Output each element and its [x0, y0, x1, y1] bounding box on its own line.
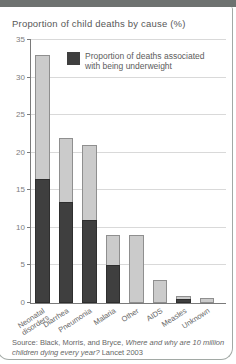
gridline-30	[31, 77, 226, 78]
gridline-25	[31, 114, 226, 115]
chart-page: Proportion of child deaths by cause (%) …	[0, 0, 236, 364]
legend-swatch	[67, 52, 80, 65]
chart-title: Proportion of child deaths by cause (%)	[12, 18, 224, 29]
y-tick-label-20: 20	[5, 148, 25, 157]
y-tick-label-30: 30	[5, 73, 25, 82]
source-note: Source: Black, Morris, and Bryce, Where …	[12, 338, 225, 358]
y-tick-mark-35	[27, 39, 31, 40]
y-tick-mark-20	[27, 152, 31, 153]
y-tick-label-5: 5	[5, 260, 25, 269]
y-tick-mark-25	[27, 114, 31, 115]
source-prefix: Source: Black, Morris, and Bryce,	[12, 338, 125, 347]
bar-total-8	[200, 298, 215, 303]
bar-total-6	[153, 280, 168, 303]
source-journal: Lancet 2003	[100, 348, 143, 357]
y-tick-label-0: 0	[5, 298, 25, 307]
plot-area: Proportion of deaths associated with bei…	[30, 40, 226, 304]
page-top-strip	[0, 0, 236, 7]
y-tick-mark-10	[27, 227, 31, 228]
bar-underweight-7	[176, 299, 191, 303]
bar-total-5	[129, 235, 144, 303]
y-tick-mark-30	[27, 77, 31, 78]
bar-underweight-3	[82, 220, 97, 303]
y-tick-label-35: 35	[5, 35, 25, 44]
y-tick-mark-5	[27, 264, 31, 265]
legend: Proportion of deaths associated with bei…	[67, 51, 205, 71]
bar-underweight-4	[106, 265, 121, 303]
y-tick-label-25: 25	[5, 110, 25, 119]
y-tick-mark-15	[27, 189, 31, 190]
y-tick-mark-0	[27, 302, 31, 303]
legend-label: Proportion of deaths associated with bei…	[85, 51, 205, 71]
y-tick-label-15: 15	[5, 185, 25, 194]
bar-underweight-2	[59, 202, 74, 303]
bar-underweight-1	[35, 179, 50, 303]
gridline-35	[31, 39, 226, 40]
y-tick-label-10: 10	[5, 223, 25, 232]
